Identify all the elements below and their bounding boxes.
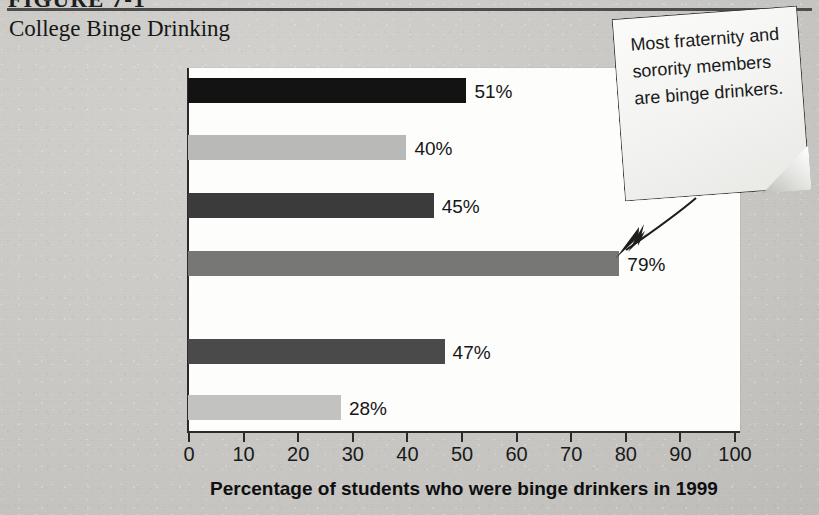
x-axis-tick-label: 100 <box>718 443 751 466</box>
x-axis-tick <box>297 433 299 442</box>
x-axis-tick-label: 10 <box>232 443 254 466</box>
x-axis-tick <box>734 433 736 442</box>
sticky-note-callout: Most fraternity and sorority members are… <box>612 5 811 201</box>
x-axis-tick-label: 40 <box>396 443 418 466</box>
x-axis-tick <box>516 433 518 442</box>
bar-value-label: 40% <box>414 138 452 160</box>
x-axis-tick <box>461 433 463 442</box>
x-axis-tick <box>188 433 190 442</box>
bar <box>188 193 434 218</box>
x-axis-tick-label: 50 <box>451 443 473 466</box>
sticky-note-text: Most fraternity and sorority members are… <box>630 21 786 113</box>
x-axis-tick-label: 20 <box>287 443 309 466</box>
bar <box>188 78 466 103</box>
x-axis-tick <box>243 433 245 442</box>
x-axis-tick-label: 90 <box>669 443 691 466</box>
figure-page: FIGURE 7-1 College Binge Drinking MenWom… <box>0 0 819 515</box>
x-axis-title: Percentage of students who were binge dr… <box>188 478 740 500</box>
x-axis-tick-label: 70 <box>560 443 582 466</box>
bar-value-label: 45% <box>442 196 480 218</box>
arrow-down-left-icon <box>604 196 700 260</box>
x-axis-line <box>188 431 740 433</box>
bar <box>188 395 341 420</box>
bar-value-label: 51% <box>474 81 512 103</box>
bar <box>188 251 619 276</box>
bar-value-label: 28% <box>349 398 387 420</box>
x-axis-tick-label: 80 <box>615 443 637 466</box>
category-axis-labels: MenWomenLive inresidence hallLive infrat… <box>0 0 180 515</box>
x-axis-tick <box>625 433 627 442</box>
bar <box>188 339 445 364</box>
x-axis-tick <box>406 433 408 442</box>
x-axis-tick <box>352 433 354 442</box>
x-axis-tick-label: 30 <box>342 443 364 466</box>
x-axis-tick-label: 60 <box>505 443 527 466</box>
bar <box>188 135 406 160</box>
x-axis-tick <box>570 433 572 442</box>
x-axis-tick-label: 0 <box>183 443 194 466</box>
bar-value-label: 47% <box>453 342 491 364</box>
x-axis-tick <box>679 433 681 442</box>
